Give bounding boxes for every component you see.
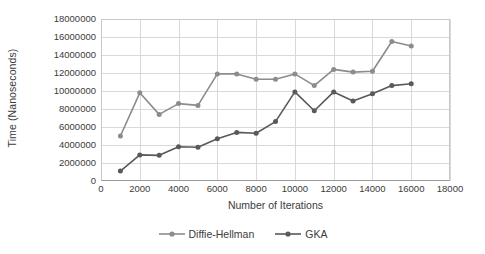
series-diffie-hellman xyxy=(118,39,414,139)
data-point xyxy=(351,98,356,103)
data-point xyxy=(234,130,239,135)
x-tick-label: 10000 xyxy=(282,183,308,195)
y-tick-label: 4000000 xyxy=(59,140,96,150)
legend-marker-icon xyxy=(158,229,186,239)
data-point xyxy=(370,69,375,74)
series-container xyxy=(101,19,450,181)
x-tick-label: 0 xyxy=(98,183,103,195)
data-point xyxy=(273,119,278,124)
data-point xyxy=(351,70,356,75)
series-line xyxy=(120,84,411,171)
data-point xyxy=(195,103,200,108)
legend-item-label: Diffie-Hellman xyxy=(189,228,255,240)
x-tick-label: 8000 xyxy=(246,183,267,195)
data-point xyxy=(292,71,297,76)
x-tick-label: 18000 xyxy=(437,183,463,195)
y-tick-label: 8000000 xyxy=(59,104,96,114)
data-point xyxy=(118,169,123,174)
y-tick-label: 14000000 xyxy=(54,50,96,60)
plot-area xyxy=(101,19,450,181)
data-point xyxy=(215,71,220,76)
data-point xyxy=(234,71,239,76)
data-point xyxy=(292,89,297,94)
data-point xyxy=(409,81,414,86)
y-tick-label: 18000000 xyxy=(54,14,96,24)
data-point xyxy=(331,67,336,72)
x-axis-title-label: Number of Iterations xyxy=(228,199,323,211)
data-point xyxy=(137,90,142,95)
data-point xyxy=(312,108,317,113)
data-point xyxy=(137,152,142,157)
y-tick-label: 16000000 xyxy=(54,32,96,42)
legend-item-diffie-hellman[interactable]: Diffie-Hellman xyxy=(158,228,255,240)
data-point xyxy=(312,83,317,88)
y-axis-title: Time (Nanoseconds) xyxy=(0,0,24,196)
gridline-vertical xyxy=(450,19,451,181)
data-point xyxy=(254,77,259,82)
x-axis-tick-labels: 0200040006000800010000120001400016000180… xyxy=(101,183,450,197)
data-point xyxy=(195,145,200,150)
data-point xyxy=(254,131,259,136)
data-point xyxy=(215,136,220,141)
data-point xyxy=(176,101,181,106)
series-line xyxy=(120,42,411,137)
series-gka xyxy=(118,81,414,173)
y-axis-tick-labels: 0200000040000006000000800000010000000120… xyxy=(26,0,100,196)
data-point xyxy=(118,134,123,139)
x-tick-label: 6000 xyxy=(207,183,228,195)
data-point xyxy=(331,89,336,94)
chart-legend: Diffie-HellmanGKA xyxy=(0,228,485,240)
y-tick-label: 10000000 xyxy=(54,86,96,96)
x-tick-label: 12000 xyxy=(320,183,346,195)
y-tick-label: 2000000 xyxy=(59,158,96,168)
y-axis-title-label: Time (Nanoseconds) xyxy=(6,49,18,148)
data-point xyxy=(370,91,375,96)
data-point xyxy=(389,83,394,88)
x-tick-label: 4000 xyxy=(168,183,189,195)
line-chart: Time (Nanoseconds) 020000004000000600000… xyxy=(0,0,485,254)
y-tick-label: 0 xyxy=(91,176,96,186)
x-axis-title: Number of Iterations xyxy=(101,199,450,211)
legend-marker-icon xyxy=(274,229,302,239)
x-tick-label: 2000 xyxy=(129,183,150,195)
legend-item-label: GKA xyxy=(305,228,327,240)
data-point xyxy=(389,39,394,44)
x-tick-label: 14000 xyxy=(359,183,385,195)
data-point xyxy=(273,77,278,82)
legend-item-gka[interactable]: GKA xyxy=(274,228,327,240)
data-point xyxy=(176,144,181,149)
y-tick-label: 12000000 xyxy=(54,68,96,78)
y-tick-label: 6000000 xyxy=(59,122,96,132)
data-point xyxy=(157,153,162,158)
data-point xyxy=(409,44,414,49)
x-tick-label: 16000 xyxy=(398,183,424,195)
data-point xyxy=(157,112,162,117)
